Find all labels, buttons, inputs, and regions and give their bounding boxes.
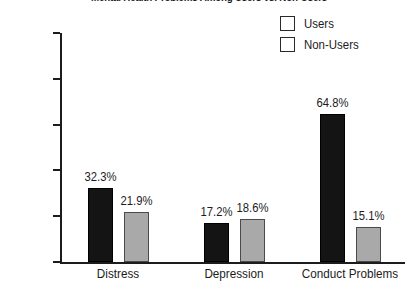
bar-users-0 bbox=[88, 188, 113, 262]
bar-value-users-0: 32.3% bbox=[80, 170, 121, 184]
bar-value-nonusers-2: 15.1% bbox=[348, 209, 389, 223]
chart-title: Mental Health Problems Among Users vs. N… bbox=[15, 0, 404, 3]
bar-value-users-2: 64.8% bbox=[312, 96, 353, 110]
bar-value-users-1: 17.2% bbox=[196, 205, 237, 219]
bar-value-nonusers-0: 21.9% bbox=[116, 194, 157, 208]
y-tick-80 bbox=[53, 78, 60, 80]
bar-value-nonusers-1: 18.6% bbox=[232, 201, 273, 215]
y-tick-0 bbox=[53, 261, 60, 263]
y-tick-60 bbox=[53, 124, 60, 126]
bar-nonusers-2 bbox=[356, 227, 381, 262]
category-label-2: Conduct Problems bbox=[296, 266, 404, 281]
y-axis-line bbox=[60, 33, 62, 262]
y-tick-20 bbox=[53, 215, 60, 217]
y-tick-100 bbox=[53, 32, 60, 34]
x-axis-line bbox=[60, 262, 405, 264]
category-label-0: Distress bbox=[64, 266, 172, 281]
bar-nonusers-0 bbox=[124, 212, 149, 262]
bar-users-1 bbox=[204, 223, 229, 262]
legend-item-users: Users bbox=[280, 13, 366, 34]
plot-area: 020406080100 32.3%21.9%17.2%18.6%64.8%15… bbox=[60, 33, 405, 262]
bar-nonusers-1 bbox=[240, 219, 265, 262]
bar-users-2 bbox=[320, 114, 345, 262]
legend-label-users: Users bbox=[304, 16, 334, 31]
legend-swatch-users bbox=[280, 16, 295, 31]
y-tick-40 bbox=[53, 169, 60, 171]
category-label-1: Depression bbox=[180, 266, 288, 281]
bar-chart-figure: Mental Health Problems Among Users vs. N… bbox=[0, 0, 418, 292]
